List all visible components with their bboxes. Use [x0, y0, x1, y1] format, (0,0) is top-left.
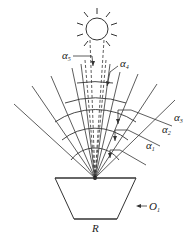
receiver-trapezoid — [55, 178, 136, 219]
arrowheads — [91, 61, 141, 208]
solar-angle-diagram: α5 α4 α3 α2 α1 O1 R — [0, 0, 193, 237]
label-R: R — [91, 222, 99, 234]
label-alpha1: α1 — [146, 139, 155, 152]
sun-beam-lines — [85, 40, 106, 178]
label-alpha3: α3 — [174, 111, 183, 124]
leader-lines — [73, 56, 172, 206]
label-alpha4: α4 — [120, 57, 129, 70]
label-O1: O1 — [149, 200, 160, 213]
sun-icon — [77, 8, 117, 46]
angle-arcs — [55, 82, 136, 160]
label-alpha5: α5 — [62, 49, 71, 62]
